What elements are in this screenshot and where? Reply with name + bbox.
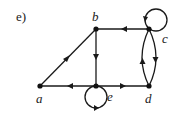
node-label-e: e — [107, 89, 113, 105]
arrow-loop-c-icon — [143, 16, 148, 22]
node-label-a: a — [36, 91, 43, 107]
node-label-d: d — [145, 91, 152, 107]
arrow-b-e-icon — [93, 54, 99, 60]
arrow-c-d-icon — [153, 57, 159, 63]
edge-d-c — [142, 29, 149, 86]
arrow-d-c-icon — [140, 58, 146, 64]
node-label-b: b — [92, 9, 99, 25]
arrow-loop-e-icon — [94, 105, 99, 111]
node-a — [37, 83, 42, 88]
arrow-e-a-icon — [67, 83, 73, 89]
arrow-e-d-icon — [120, 83, 126, 89]
part-label: e) — [16, 9, 26, 25]
loop-e — [85, 86, 107, 108]
node-label-c: c — [162, 31, 168, 47]
node-d — [146, 83, 151, 88]
node-e — [93, 83, 98, 88]
arrow-c-b-icon — [121, 26, 127, 32]
node-c — [146, 26, 151, 31]
node-b — [93, 26, 98, 31]
